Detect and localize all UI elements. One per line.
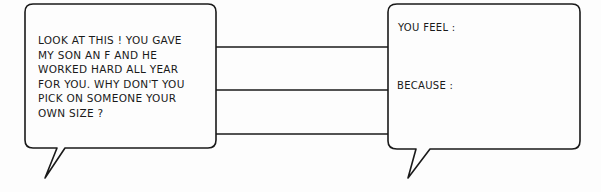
because-prompt: BECAUSE : <box>397 80 453 91</box>
left-bubble-line: WORKED HARD ALL YEAR <box>38 62 208 77</box>
left-bubble-line: OWN SIZE ? <box>38 106 208 121</box>
left-bubble-line: FOR YOU. WHY DON'T YOU <box>38 77 208 92</box>
left-bubble-line: LOOK AT THIS ! YOU GAVE <box>38 33 208 48</box>
you-feel-prompt: YOU FEEL : <box>398 22 455 33</box>
speech-bubble-worksheet: LOOK AT THIS ! YOU GAVE MY SON AN F AND … <box>0 0 601 192</box>
left-bubble-line: MY SON AN F AND HE <box>38 48 208 63</box>
left-bubble-text: LOOK AT THIS ! YOU GAVE MY SON AN F AND … <box>38 33 208 120</box>
left-bubble-line: PICK ON SOMEONE YOUR <box>38 91 208 106</box>
